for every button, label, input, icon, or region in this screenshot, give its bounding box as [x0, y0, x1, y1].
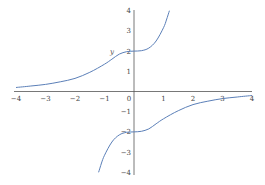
x-tick-label: −1 [99, 95, 109, 103]
y-tick-label: −4 [121, 169, 132, 177]
function-graph: −4−3−2−101234 4321−1−2−3−4 y [0, 0, 265, 185]
x-tick-label: −4 [11, 95, 22, 103]
axes [14, 10, 252, 175]
x-tick-labels: −4−3−2−101234 [11, 95, 255, 103]
y-tick-label: 3 [127, 27, 131, 35]
y-tick-label: 1 [127, 68, 131, 76]
lower-branch-curve [99, 96, 252, 173]
x-tick-label: 2 [191, 95, 195, 103]
y-tick-label: −3 [121, 149, 131, 157]
y-tick-label: 4 [127, 7, 132, 15]
x-tick-label: −2 [70, 95, 80, 103]
x-tick-label: −3 [40, 95, 50, 103]
x-tick-label: 1 [161, 95, 165, 103]
x-tick-label: 0 [127, 95, 131, 103]
y-tick-label: −1 [121, 108, 131, 116]
y-tick-labels: 4321−1−2−3−4 [121, 7, 132, 177]
y-axis-label: y [109, 48, 115, 56]
upper-branch-curve [16, 11, 169, 88]
